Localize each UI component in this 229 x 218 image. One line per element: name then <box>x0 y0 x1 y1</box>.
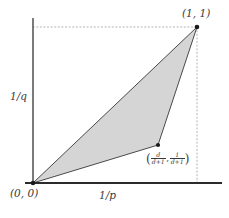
x-axis-label: 1/p <box>99 190 116 201</box>
fraction-denominator: d+1 <box>151 158 166 165</box>
corner-one-dot <box>195 25 200 30</box>
region-diagram: (1, 1) (0, 0) 1/q 1/p (dd+1,1d+1) <box>0 0 229 218</box>
fraction-d-over-d-plus-1: dd+1 <box>151 152 166 166</box>
inner-vertex-close-paren: ) <box>185 152 190 166</box>
inner-vertex-label: (dd+1,1d+1) <box>146 152 189 166</box>
inner-vertex-dot <box>156 143 160 147</box>
corner-one-label: (1, 1) <box>182 8 210 19</box>
origin-dot <box>31 181 36 186</box>
fraction-denominator: d+1 <box>170 158 185 165</box>
y-axis-label: 1/q <box>10 91 27 102</box>
plot-canvas <box>0 0 229 218</box>
origin-label: (0, 0) <box>10 188 38 199</box>
fraction-1-over-d-plus-1: 1d+1 <box>170 152 185 166</box>
